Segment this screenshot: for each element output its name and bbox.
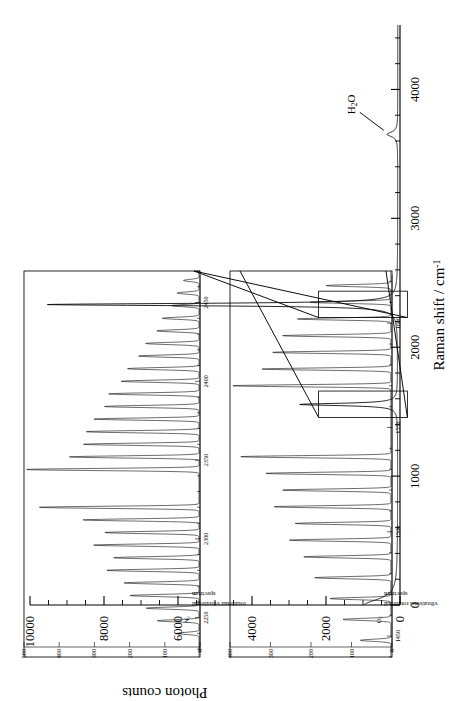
x-axis-title-sup: -1 xyxy=(431,259,442,267)
inset-o2-frame xyxy=(230,271,392,657)
inset-y-tick-label: 300 xyxy=(91,649,97,658)
y-tick-label: 8000 xyxy=(98,616,111,641)
y-tick-label: 10000 xyxy=(24,616,37,647)
inset-y-tick-label: 500 xyxy=(21,649,27,658)
x-axis-title: Raman shift / cm-1 xyxy=(432,259,447,370)
leader-line-h2o xyxy=(360,112,384,130)
inset-o2-caption-line2: spectrum xyxy=(384,591,407,597)
inset-y-tick-label: 400 xyxy=(227,649,233,658)
inset-n2-frame xyxy=(24,271,200,657)
x-tick-label: 1000 xyxy=(409,464,422,489)
inset-x-tick-label: 1500 xyxy=(395,526,401,538)
x-tick-label: 0 xyxy=(409,602,422,608)
inset-y-tick-label: 0 xyxy=(197,649,203,652)
y-tick-label: 6000 xyxy=(172,616,185,641)
inset-y-tick-label: 0 xyxy=(389,649,395,652)
x-tick-label: 4000 xyxy=(409,77,422,102)
inset-y-tick-label: 100 xyxy=(348,649,354,658)
raman-spectrum-figure: Raman shift / cm-1 Photon counts H2O N2 … xyxy=(0,0,462,701)
x-tick-label: 2000 xyxy=(409,335,422,360)
x-axis-title-text: Raman shift / cm xyxy=(431,268,447,371)
inset-x-tick-label: 2350 xyxy=(203,454,209,466)
callout-box-n2 xyxy=(319,291,408,317)
y-tick-label: 2000 xyxy=(320,616,333,641)
inset-y-tick-label: 200 xyxy=(126,649,132,658)
inset-x-tick-label: 2300 xyxy=(203,533,209,545)
inset-o2 xyxy=(230,271,392,657)
inset-y-tick-label: 100 xyxy=(162,649,168,658)
inset-x-tick-label: 2250 xyxy=(203,611,209,623)
annotation-h2o: H2O xyxy=(346,94,358,114)
rotated-figure-wrapper: Raman shift / cm-1 Photon counts H2O N2 … xyxy=(0,0,462,701)
leader-lines xyxy=(194,112,407,417)
inset-o2-trace-path xyxy=(233,271,391,657)
inset-n2-trace-path xyxy=(27,271,199,657)
inset-n2-y-ticks xyxy=(24,642,200,647)
inset-n2-species-label: N2 xyxy=(184,616,191,623)
inset-y-tick-label: 200 xyxy=(308,649,314,658)
inset-o2-y-ticks xyxy=(230,642,392,647)
inset-x-tick-label: 1600 xyxy=(395,317,401,329)
callout-box-o2 xyxy=(319,391,408,417)
inset-n2-caption-line1: rotational vibrational xyxy=(192,601,246,607)
inset-o2-species-label: O2 xyxy=(376,616,383,623)
y-tick-label: 0 xyxy=(394,616,407,622)
inset-x-tick-label: 1450 xyxy=(395,630,401,642)
inset-y-tick-label: 300 xyxy=(267,649,273,658)
inset-n2-caption-line2: spectrum xyxy=(192,591,215,597)
inset-x-tick-label: 2400 xyxy=(203,375,209,387)
inset-x-tick-label: 1550 xyxy=(395,421,401,433)
figure-page: Raman shift / cm-1 Photon counts H2O N2 … xyxy=(0,0,462,701)
y-tick-label: 4000 xyxy=(246,616,259,641)
inset-y-tick-label: 400 xyxy=(56,649,62,658)
y-axis-title: Photon counts xyxy=(122,685,207,700)
inset-n2 xyxy=(24,271,200,657)
x-tick-label: 3000 xyxy=(409,206,422,231)
inset-x-tick-label: 2450 xyxy=(203,296,209,308)
